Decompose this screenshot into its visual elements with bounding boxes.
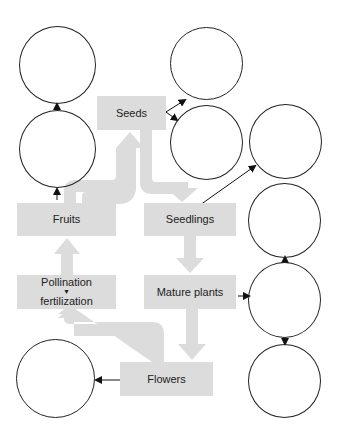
- blank-circle-8: [248, 344, 321, 418]
- blank-circle-3: [170, 27, 243, 100]
- stage-label-fertilization: fertilization: [40, 295, 93, 308]
- stage-label-seeds: Seeds: [116, 107, 147, 120]
- blank-circle-2: [19, 110, 96, 188]
- stage-box-seeds: Seeds: [97, 96, 166, 130]
- blank-circle-9: [16, 339, 95, 418]
- blank-circle-1: [19, 26, 96, 104]
- arrow-seedlings-to-mature: [176, 236, 204, 273]
- stage-box-mature-plants: Mature plants: [144, 275, 236, 309]
- stage-label-seedlings: Seedlings: [166, 213, 214, 226]
- arrow-mature-to-flowers: [178, 308, 206, 360]
- blank-circle-7: [248, 262, 321, 338]
- blank-circle-5: [249, 104, 322, 179]
- plant-life-cycle-diagram: Seeds Fruits Seedlings Pollination ▼ fer…: [0, 0, 338, 434]
- stage-box-seedlings: Seedlings: [144, 203, 236, 236]
- blank-circle-4: [170, 105, 243, 180]
- stage-box-fruits: Fruits: [17, 203, 116, 236]
- line-seeds-to-circle3: [166, 100, 185, 112]
- stage-box-pollination: Pollination ▼ fertilization: [17, 275, 116, 309]
- arrow-pollination-to-fruits: [54, 238, 80, 275]
- stage-box-flowers: Flowers: [120, 362, 213, 396]
- stage-label-fruits: Fruits: [53, 213, 81, 226]
- stage-label-mature-plants: Mature plants: [157, 286, 224, 299]
- blank-circle-6: [248, 183, 321, 258]
- stage-label-flowers: Flowers: [147, 373, 186, 386]
- line-seeds-to-circle4: [166, 112, 177, 120]
